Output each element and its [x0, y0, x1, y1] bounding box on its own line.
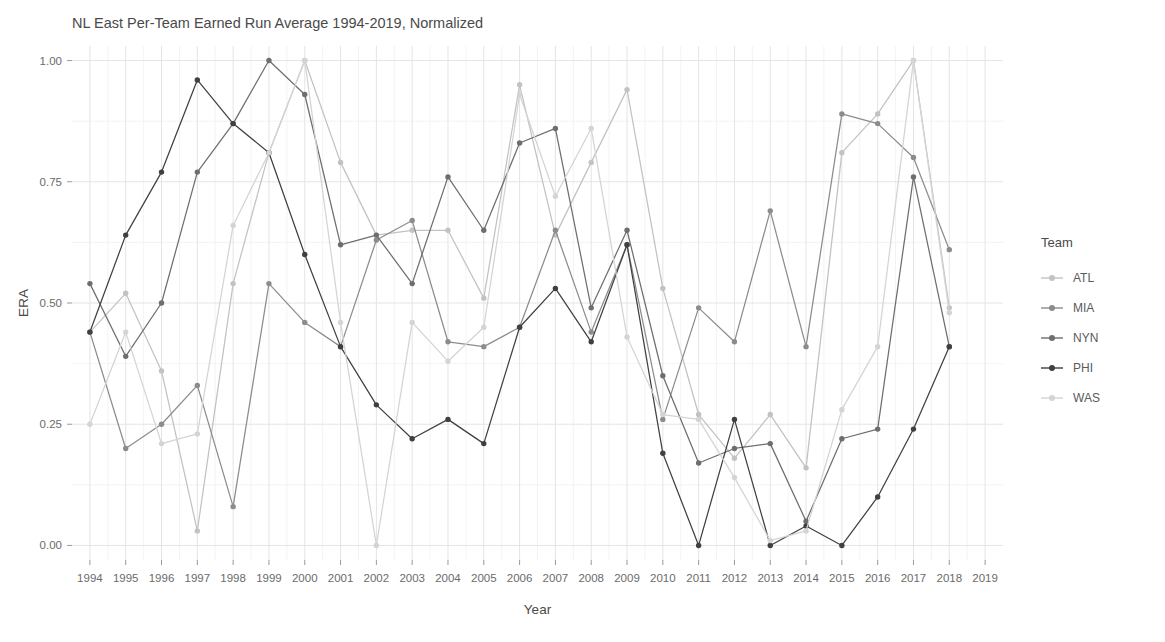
x-tick-label: 2015 — [829, 572, 855, 584]
data-point — [768, 441, 773, 446]
data-point — [768, 412, 773, 417]
data-point — [409, 281, 414, 286]
data-point — [481, 295, 486, 300]
legend-label-atl: ATL — [1073, 271, 1094, 285]
data-point — [517, 140, 522, 145]
data-point — [911, 155, 916, 160]
data-point — [732, 455, 737, 460]
x-tick-label: 2017 — [901, 572, 927, 584]
data-point — [696, 305, 701, 310]
data-point — [445, 174, 450, 179]
data-point — [159, 441, 164, 446]
data-point — [338, 160, 343, 165]
x-tick-label: 2002 — [364, 572, 390, 584]
data-point — [374, 232, 379, 237]
data-point — [302, 320, 307, 325]
data-point — [624, 228, 629, 233]
data-point — [338, 242, 343, 247]
data-point — [517, 82, 522, 87]
era-line-chart: NL East Per-Team Earned Run Average 1994… — [0, 0, 1165, 642]
data-point — [875, 426, 880, 431]
data-point — [911, 426, 916, 431]
data-point — [517, 325, 522, 330]
data-point — [732, 339, 737, 344]
x-tick-label: 2019 — [972, 572, 998, 584]
data-point — [230, 281, 235, 286]
data-point — [87, 422, 92, 427]
data-point — [553, 194, 558, 199]
x-axis-label: Year — [524, 602, 552, 617]
y-tick-label: 1.00 — [40, 55, 62, 67]
data-point — [839, 150, 844, 155]
data-point — [553, 126, 558, 131]
x-tick-label: 1997 — [185, 572, 211, 584]
data-point — [839, 407, 844, 412]
data-point — [803, 465, 808, 470]
data-point — [589, 126, 594, 131]
data-point — [732, 475, 737, 480]
data-point — [409, 218, 414, 223]
x-tick-label: 2011 — [686, 572, 711, 584]
x-tick-label: 2018 — [936, 572, 962, 584]
data-point — [768, 538, 773, 543]
data-point — [875, 111, 880, 116]
data-point — [553, 286, 558, 291]
legend-title: Team — [1041, 235, 1073, 250]
data-point — [660, 417, 665, 422]
data-point — [123, 329, 128, 334]
data-point — [660, 451, 665, 456]
data-point — [445, 339, 450, 344]
data-point — [445, 358, 450, 363]
data-point — [589, 160, 594, 165]
x-tick-label: 2009 — [614, 572, 640, 584]
data-point — [517, 92, 522, 97]
legend-label-mia: MIA — [1073, 301, 1094, 315]
data-point — [159, 368, 164, 373]
x-tick-label: 1999 — [256, 572, 282, 584]
data-point — [624, 242, 629, 247]
y-tick-label: 0.25 — [40, 418, 62, 430]
data-point — [195, 431, 200, 436]
x-tick-label: 2006 — [507, 572, 533, 584]
data-point — [159, 169, 164, 174]
x-tick-label: 2012 — [722, 572, 748, 584]
data-point — [768, 208, 773, 213]
data-point — [123, 291, 128, 296]
chart-title: NL East Per-Team Earned Run Average 1994… — [72, 15, 483, 31]
data-point — [839, 543, 844, 548]
data-point — [624, 334, 629, 339]
data-point — [230, 504, 235, 509]
x-tick-label: 2007 — [543, 572, 569, 584]
data-point — [159, 422, 164, 427]
data-point — [266, 281, 271, 286]
data-point — [947, 247, 952, 252]
data-point — [875, 494, 880, 499]
x-tick-label: 2008 — [578, 572, 604, 584]
legend-label-phi: PHI — [1073, 361, 1093, 375]
data-point — [481, 325, 486, 330]
x-tick-label: 2000 — [292, 572, 318, 584]
legend-key-point-mia — [1049, 305, 1055, 311]
data-point — [589, 339, 594, 344]
data-point — [875, 121, 880, 126]
data-point — [481, 344, 486, 349]
x-tick-label: 2001 — [328, 572, 354, 584]
data-point — [803, 344, 808, 349]
y-tick-label: 0.75 — [40, 176, 62, 188]
y-tick-label: 0.50 — [40, 297, 62, 309]
data-point — [803, 528, 808, 533]
data-point — [445, 228, 450, 233]
data-point — [947, 310, 952, 315]
data-point — [302, 58, 307, 63]
y-axis-label: ERA — [16, 289, 31, 317]
legend-label-was: WAS — [1073, 391, 1100, 405]
data-point — [123, 354, 128, 359]
data-point — [624, 87, 629, 92]
data-point — [768, 543, 773, 548]
data-point — [911, 174, 916, 179]
x-tick-label: 2016 — [865, 572, 891, 584]
data-point — [266, 58, 271, 63]
data-point — [409, 320, 414, 325]
legend-key-point-nyn — [1049, 335, 1055, 341]
data-point — [302, 252, 307, 257]
